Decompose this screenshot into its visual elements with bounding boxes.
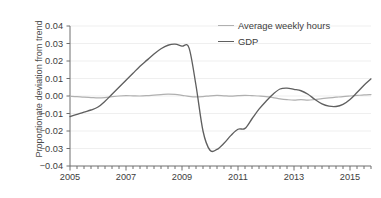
x-axis-tick-label: 2007 [116, 172, 136, 182]
legend-label-gdp: GDP [238, 36, 258, 47]
legend-label-average-weekly-hours: Average weekly hours [238, 20, 330, 31]
legend: Average weekly hours GDP [218, 17, 378, 49]
x-axis-tick-label: 2005 [60, 172, 80, 182]
legend-item-average-weekly-hours: Average weekly hours [218, 17, 378, 33]
x-axis-tick-label: 2013 [284, 172, 304, 182]
x-axis-tick-label: 2009 [172, 172, 192, 182]
x-axis-tick-label: 2015 [340, 172, 360, 182]
legend-swatch-average-weekly-hours [218, 25, 234, 26]
legend-item-gdp: GDP [218, 33, 378, 49]
legend-swatch-gdp [218, 41, 234, 42]
x-axis-tick-label: 2011 [228, 172, 248, 182]
chart-container: Proportionate deviation from trend 0.040… [0, 0, 381, 198]
